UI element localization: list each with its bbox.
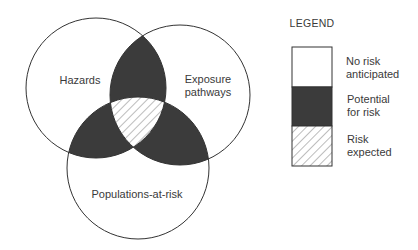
legend-swatch-no-risk [292,47,332,87]
populations-label: Populations-at-risk [91,188,183,200]
legend-label-no-risk-line1: No risk [346,55,381,67]
legend-label-risk-expected-line2: expected [347,146,392,158]
legend-title: LEGEND [290,17,335,29]
legend: LEGEND No risk anticipated Potential for… [290,17,400,166]
venn-diagram: Hazards Exposure pathways Populations-at… [0,0,418,250]
exposure-label-line2: pathways [185,86,232,98]
legend-label-no-risk-line2: anticipated [346,68,399,80]
legend-label-potential-line2: for risk [347,106,381,118]
legend-swatch-risk-expected [292,126,332,166]
exposure-label-line1: Exposure [185,73,231,85]
legend-swatch-potential-risk [292,87,332,126]
legend-label-potential-line1: Potential [347,93,390,105]
legend-label-risk-expected-line1: Risk [347,133,369,145]
hazards-label: Hazards [60,74,101,86]
